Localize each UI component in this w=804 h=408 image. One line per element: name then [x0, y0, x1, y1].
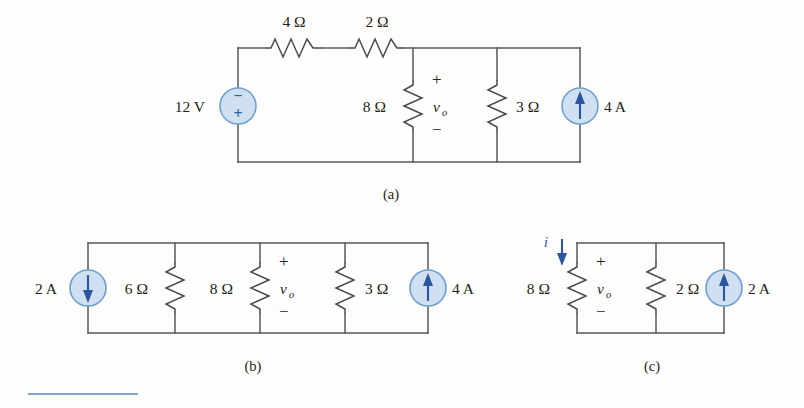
resistor-c-8ohm-symbol	[568, 262, 586, 314]
label-c-vo-symbol: v	[597, 280, 604, 297]
label-c-vo-subscript: o	[606, 289, 611, 300]
label-c-vo-plus: +	[596, 252, 606, 271]
label-b-8ohm: 8 Ω	[210, 280, 233, 297]
label-a-2ohm: 2 Ω	[365, 13, 388, 30]
circuit-diagram-canvas: − + 4 Ω 2 Ω 12 V 8 Ω 3 Ω 4 A + v o − (a)	[0, 0, 804, 408]
resistor-b-3ohm-symbol	[336, 262, 354, 314]
resistor-a-3ohm-symbol	[488, 80, 506, 132]
current-arrow-c-i-icon	[557, 239, 567, 266]
circuit-c: i 8 Ω 2 Ω 2 A + v o − (c)	[527, 233, 771, 375]
label-b-vo-subscript: o	[289, 289, 294, 300]
resistor-c-2ohm-symbol	[647, 262, 665, 314]
label-a-8ohm: 8 Ω	[363, 98, 386, 115]
label-a-vo-plus: +	[432, 70, 442, 89]
label-b-vo-minus: −	[279, 302, 289, 321]
label-c-i: i	[544, 233, 548, 250]
resistor-a-4ohm-symbol	[266, 39, 322, 57]
label-a-vo-subscript: o	[442, 107, 447, 118]
label-b-2a: 2 A	[35, 280, 58, 297]
label-a-vo-minus: −	[432, 120, 442, 139]
label-c-2ohm: 2 Ω	[676, 280, 699, 297]
caption-b: (b)	[245, 358, 262, 375]
label-b-6ohm: 6 Ω	[125, 280, 148, 297]
label-a-vo-symbol: v	[433, 98, 440, 115]
label-c-8ohm: 8 Ω	[527, 280, 550, 297]
voltage-source-a-minus-sign: −	[233, 87, 242, 104]
label-b-4a: 4 A	[452, 280, 475, 297]
label-b-vo-symbol: v	[280, 280, 287, 297]
resistor-a-2ohm-symbol	[350, 39, 404, 57]
label-b-3ohm: 3 Ω	[365, 280, 388, 297]
label-a-4ohm: 4 Ω	[282, 13, 305, 30]
caption-c: (c)	[644, 358, 660, 375]
label-c-vo-minus: −	[596, 302, 606, 321]
label-a-3ohm: 3 Ω	[516, 98, 539, 115]
label-a-4a: 4 A	[604, 98, 627, 115]
resistor-b-6ohm-symbol	[166, 262, 184, 314]
figure-root: − + 4 Ω 2 Ω 12 V 8 Ω 3 Ω 4 A + v o − (a)	[0, 0, 804, 408]
voltage-source-a-plus-sign: +	[233, 105, 242, 122]
label-a-12v: 12 V	[175, 98, 206, 115]
circuit-a: − + 4 Ω 2 Ω 12 V 8 Ω 3 Ω 4 A + v o − (a)	[175, 13, 627, 203]
caption-a: (a)	[383, 186, 399, 203]
label-b-vo-plus: +	[279, 252, 289, 271]
resistor-a-8ohm-symbol	[404, 80, 422, 132]
resistor-b-8ohm-symbol	[251, 262, 269, 314]
label-c-2a: 2 A	[748, 280, 771, 297]
circuit-b: 2 A 6 Ω 8 Ω 3 Ω 4 A + v o − (b)	[35, 243, 475, 375]
